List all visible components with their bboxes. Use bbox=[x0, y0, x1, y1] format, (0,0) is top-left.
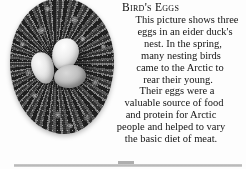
body-line: many nesting birds bbox=[96, 50, 246, 62]
body-line: and protein for Arctic bbox=[96, 109, 246, 121]
body-line: valuable source of food bbox=[96, 97, 246, 109]
body-line: rear their young. bbox=[96, 74, 246, 86]
body-line: the basic diet of meat. bbox=[96, 133, 246, 145]
body-line: came to the Arctic to bbox=[96, 62, 246, 74]
body-line: Their eggs were a bbox=[96, 85, 246, 97]
body-line: This picture shows three bbox=[96, 14, 246, 26]
page-root: Bird's Eggs This picture shows three egg… bbox=[0, 0, 246, 169]
article-title: Bird's Eggs bbox=[96, 0, 246, 14]
body-line: people and helped to vary bbox=[96, 121, 246, 133]
body-line: eggs in an eider duck's bbox=[96, 26, 246, 38]
article-text-block: Bird's Eggs This picture shows three egg… bbox=[96, 0, 246, 150]
page-footer-rule bbox=[14, 164, 242, 167]
body-line: nest. In the spring, bbox=[96, 38, 246, 50]
